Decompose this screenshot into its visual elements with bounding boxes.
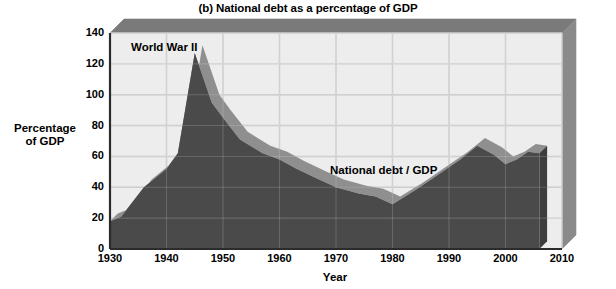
- frame-3d-right-face: [562, 19, 576, 249]
- annotation-world-war-2: World War II: [131, 41, 197, 53]
- plot-area: [0, 0, 616, 289]
- area-right-face: [539, 146, 547, 249]
- chart-figure: (b) National debt as a percentage of GDP…: [0, 0, 616, 289]
- frame-3d-top-face: [110, 19, 576, 33]
- annotation-series-label: National debt / GDP: [330, 164, 437, 176]
